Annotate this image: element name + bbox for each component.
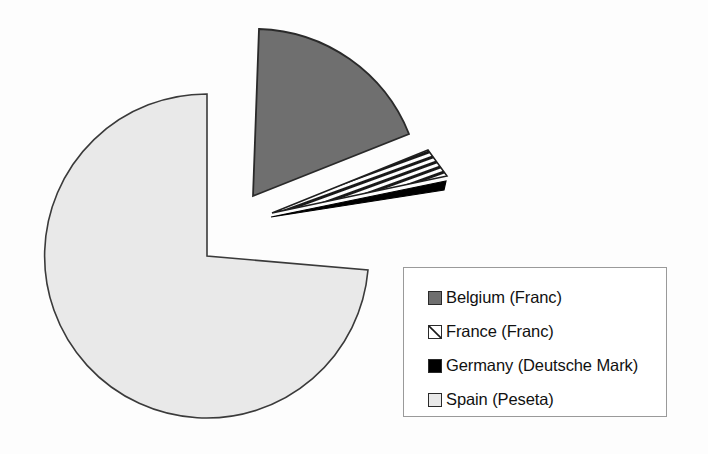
legend-label-france: France (Franc): [446, 323, 554, 340]
chart-legend: Belgium (Franc) France (Franc) Germany (…: [403, 267, 667, 417]
legend-item-germany[interactable]: Germany (Deutsche Mark): [428, 350, 666, 381]
legend-swatch-france: [428, 325, 442, 339]
legend-item-belgium[interactable]: Belgium (Franc): [428, 282, 666, 313]
hatch-pattern-icon: [429, 326, 441, 338]
legend-label-belgium: Belgium (Franc): [446, 289, 562, 306]
legend-item-france[interactable]: France (Franc): [428, 316, 666, 347]
legend-swatch-spain: [428, 393, 442, 407]
legend-label-germany: Germany (Deutsche Mark): [446, 357, 638, 374]
pie-chart: Belgium (Franc) France (Franc) Germany (…: [0, 0, 708, 454]
legend-item-spain[interactable]: Spain (Peseta): [428, 384, 666, 415]
legend-swatch-belgium: [428, 291, 442, 305]
legend-label-spain: Spain (Peseta): [446, 391, 554, 408]
legend-swatch-germany: [428, 359, 442, 373]
